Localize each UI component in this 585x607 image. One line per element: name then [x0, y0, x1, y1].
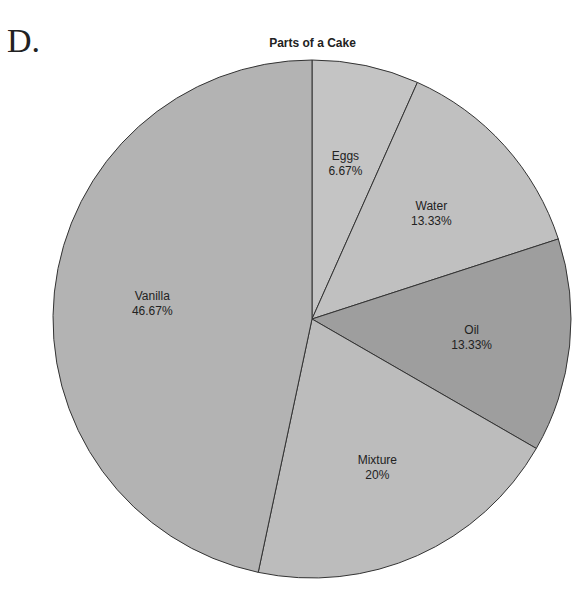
slice-value-label: 13.33%	[411, 214, 452, 228]
pie-slice-vanilla	[53, 60, 312, 572]
pie-chart: Eggs6.67%Water13.33%Oil13.33%Mixture20%V…	[0, 0, 585, 607]
slice-name-label: Vanilla	[135, 289, 170, 303]
slice-value-label: 20%	[365, 468, 389, 482]
slice-value-label: 13.33%	[451, 338, 492, 352]
slice-name-label: Water	[416, 199, 448, 213]
slice-name-label: Eggs	[332, 149, 359, 163]
slice-name-label: Oil	[464, 323, 479, 337]
slice-name-label: Mixture	[358, 453, 398, 467]
slice-value-label: 46.67%	[132, 304, 173, 318]
slice-value-label: 6.67%	[328, 164, 362, 178]
